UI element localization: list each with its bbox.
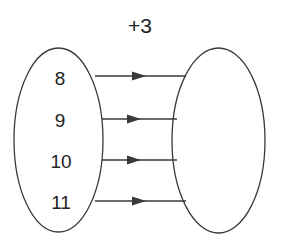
mapping-arrow-4 [95,197,186,206]
input-element-10: 10 [50,151,71,172]
arrowhead-4 [132,197,146,206]
mapping-arrow-1 [95,72,186,81]
input-element-8: 8 [55,68,66,89]
diagram-canvas: +3 8 9 10 11 [0,0,281,242]
input-element-11: 11 [51,192,71,213]
input-element-9: 9 [55,110,66,131]
arrowhead-1 [132,72,146,81]
arrowhead-2 [127,115,141,124]
mapping-arrow-3 [102,156,177,165]
mapping-diagram: +3 8 9 10 11 [0,0,281,242]
mapping-arrow-2 [102,115,177,124]
arrowhead-3 [127,156,141,165]
rule-label: +3 [128,14,152,37]
